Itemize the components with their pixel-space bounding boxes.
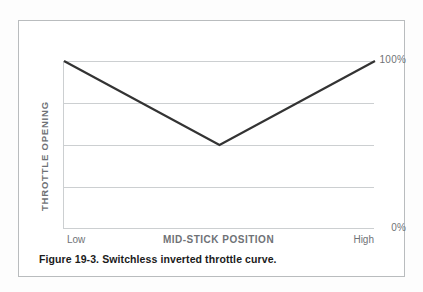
chart-region: 100% 0% THROTTLE OPENING Low MID-STICK P… (19, 21, 406, 236)
figure-card: 100% 0% THROTTLE OPENING Low MID-STICK P… (18, 20, 405, 277)
x-axis-label-high: High (353, 234, 374, 245)
x-axis-labels: Low MID-STICK POSITION High (63, 234, 374, 250)
throttle-curve-svg (64, 61, 375, 229)
y-axis-title-label: THROTTLE OPENING (39, 101, 50, 211)
x-axis-title: MID-STICK POSITION (63, 234, 374, 245)
plot-area (63, 61, 374, 229)
figure-caption: Figure 19-3. Switchless inverted throttl… (39, 253, 277, 265)
throttle-curve-line (64, 61, 375, 145)
